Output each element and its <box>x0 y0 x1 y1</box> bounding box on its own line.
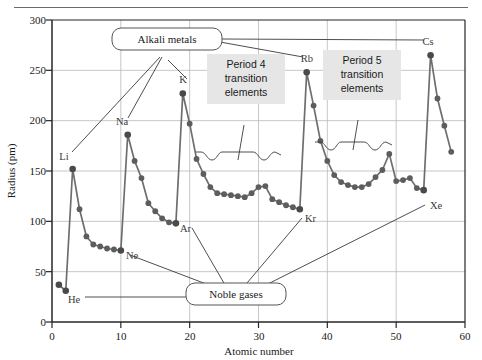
data-point <box>303 69 310 76</box>
data-point <box>56 281 63 288</box>
data-point <box>194 156 200 162</box>
data-point <box>77 206 83 212</box>
data-point <box>386 151 392 157</box>
data-point <box>290 204 296 210</box>
callout-period-4-transition[interactable]: Period 4 transition elements <box>207 54 285 104</box>
data-point <box>207 184 213 190</box>
data-point <box>166 219 172 225</box>
data-point <box>69 166 76 173</box>
point-label-Kr: Kr <box>305 213 317 224</box>
data-point <box>407 175 413 181</box>
data-point <box>84 234 90 240</box>
point-label-Na: Na <box>116 116 129 127</box>
y-tick-label-300: 300 <box>30 14 47 26</box>
data-point <box>352 184 358 190</box>
point-label-He: He <box>68 294 81 305</box>
period-4-line-3: elements <box>225 86 268 98</box>
callout-alkali-metals[interactable]: Alkali metals <box>112 28 222 50</box>
data-point <box>359 184 365 190</box>
data-point <box>427 52 434 59</box>
data-point <box>414 185 420 191</box>
point-label-Ar: Ar <box>180 223 192 234</box>
data-point <box>132 158 138 164</box>
data-point <box>393 178 399 184</box>
data-point <box>380 167 386 173</box>
data-point <box>331 172 337 178</box>
data-point <box>124 131 131 138</box>
period-4-line-1: Period 4 <box>226 58 265 70</box>
point-label-Cs: Cs <box>422 36 433 47</box>
y-tick-label-150: 150 <box>30 165 47 177</box>
data-point <box>90 242 96 248</box>
data-point <box>221 191 227 197</box>
callout-period-5-transition[interactable]: Period 5 transition elements <box>323 50 401 100</box>
data-point <box>249 190 255 196</box>
data-point <box>256 184 262 190</box>
data-point <box>283 202 289 208</box>
x-tick-label-60: 60 <box>460 330 472 342</box>
y-tick-label-0: 0 <box>41 316 47 328</box>
y-axis-ticks <box>46 20 52 322</box>
chart-svg: 300 250 200 150 100 50 0 0 10 20 30 40 5… <box>0 0 482 360</box>
callout-noble-gases[interactable]: Noble gases <box>186 283 286 305</box>
data-point <box>152 208 158 214</box>
data-point <box>400 177 406 183</box>
y-axis-title: Radius (pm) <box>5 143 18 198</box>
data-point <box>324 158 330 164</box>
x-tick-label-30: 30 <box>254 330 266 342</box>
data-point <box>345 182 351 188</box>
x-axis-ticks <box>52 322 465 328</box>
data-point <box>420 187 427 194</box>
data-point <box>373 174 379 180</box>
data-point <box>441 123 447 129</box>
x-tick-label-0: 0 <box>49 330 55 342</box>
data-point <box>187 121 193 127</box>
period-5-line-3: elements <box>341 82 384 94</box>
x-tick-label-10: 10 <box>116 330 128 342</box>
point-label-Li: Li <box>59 151 68 162</box>
point-label-Rb: Rb <box>301 53 313 64</box>
x-tick-label-40: 40 <box>322 330 334 342</box>
data-point <box>139 175 145 181</box>
x-axis-title: Atomic number <box>224 345 294 357</box>
data-point <box>338 179 344 185</box>
data-point <box>311 103 317 109</box>
data-point <box>242 194 248 200</box>
data-point <box>297 206 304 213</box>
data-point <box>435 96 441 102</box>
data-point <box>145 200 151 206</box>
data-point <box>228 192 234 198</box>
data-point <box>276 199 282 205</box>
data-point <box>448 149 454 155</box>
data-point <box>235 193 241 199</box>
x-tick-label-20: 20 <box>185 330 197 342</box>
data-point <box>262 183 268 189</box>
data-point <box>201 171 207 177</box>
data-point <box>118 247 125 254</box>
data-point <box>111 247 117 253</box>
y-tick-label-100: 100 <box>30 215 47 227</box>
period-5-line-2: transition <box>341 68 384 80</box>
y-tick-label-250: 250 <box>30 64 47 76</box>
data-point <box>97 244 103 250</box>
data-point <box>173 220 180 227</box>
callout-alkali-metals-label: Alkali metals <box>138 33 197 45</box>
y-tick-label-50: 50 <box>35 266 47 278</box>
callout-noble-gases-label: Noble gases <box>209 288 262 300</box>
period-4-line-2: transition <box>225 72 268 84</box>
data-point <box>366 181 372 187</box>
x-tick-label-50: 50 <box>391 330 403 342</box>
data-point <box>269 196 275 202</box>
period-5-line-1: Period 5 <box>342 54 381 66</box>
data-point <box>159 215 165 221</box>
data-point <box>104 246 110 252</box>
data-point <box>179 90 186 97</box>
y-tick-label-200: 200 <box>30 114 47 126</box>
point-label-Xe: Xe <box>430 200 443 211</box>
data-point <box>214 190 220 196</box>
figure-container: 300 250 200 150 100 50 0 0 10 20 30 40 5… <box>0 0 482 360</box>
